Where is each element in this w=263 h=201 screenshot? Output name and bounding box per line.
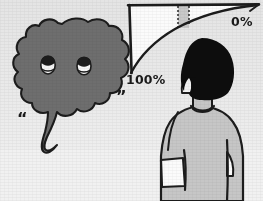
person-left-cuff (161, 158, 185, 187)
chart-label-zero-percent: 0% (231, 14, 253, 29)
person-right-arm-edge (227, 140, 228, 201)
blob-right-eye (77, 57, 91, 75)
chart-top-axis (128, 4, 259, 5)
illustration-scene: 0% 100% “ ” (0, 0, 263, 201)
chart-label-hundred-percent: 100% (126, 72, 166, 87)
open-quote-mark: “ (17, 109, 28, 128)
blob-left-eye (41, 56, 55, 74)
illustration-canvas: 0% 100% “ ” (0, 0, 263, 201)
close-quote-mark: ” (116, 87, 127, 106)
